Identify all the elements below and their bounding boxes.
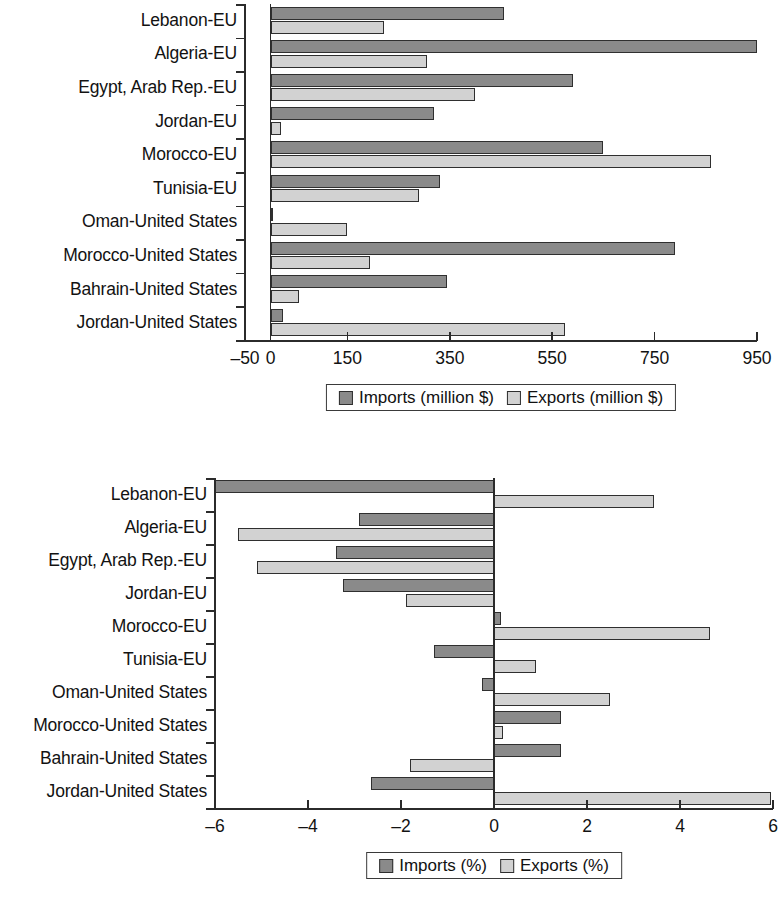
bar-imports	[271, 7, 504, 20]
legend-swatch-imports-icon	[379, 859, 393, 873]
category-label: Egypt, Arab Rep.-EU	[48, 552, 207, 570]
x-axis-tick-label: –2	[391, 818, 410, 836]
category-label: Bahrain-United States	[70, 281, 237, 299]
x-axis-tick	[493, 800, 495, 809]
bar-exports	[271, 122, 281, 135]
bar-imports	[371, 777, 494, 790]
category-label: Jordan-EU	[155, 113, 237, 131]
bar-exports	[271, 88, 476, 101]
x-axis-tick	[270, 332, 272, 341]
x-axis-tick	[551, 332, 553, 341]
x-axis-tick	[654, 332, 656, 341]
legend-item: Imports (%)	[379, 857, 487, 874]
category-label: Tunisia-EU	[123, 651, 207, 669]
category-label: Morocco-EU	[142, 146, 237, 164]
legend-swatch-imports-icon	[339, 391, 353, 405]
category-label: Oman-United States	[52, 684, 207, 702]
bar-imports	[271, 141, 604, 154]
bar-imports	[271, 107, 435, 120]
x-axis-tick-label: –4	[298, 818, 317, 836]
x-axis-tick-label: 6	[768, 818, 778, 836]
horizontal-axis	[245, 340, 757, 342]
bar-imports	[494, 744, 561, 757]
x-axis-tick-label: 350	[435, 350, 464, 368]
category-label: Lebanon-EU	[141, 12, 237, 30]
x-axis-tick	[307, 800, 309, 809]
category-label: Tunisia-EU	[153, 180, 237, 198]
bar-exports	[494, 627, 710, 640]
category-label: Lebanon-EU	[111, 486, 207, 504]
bar-exports	[494, 660, 536, 673]
category-label: Jordan-United States	[47, 783, 207, 801]
legend-label: Exports (%)	[520, 857, 609, 874]
category-label: Egypt, Arab Rep.-EU	[78, 79, 237, 97]
bar-imports	[343, 579, 494, 592]
bar-imports	[271, 242, 675, 255]
legend-item: Exports (%)	[500, 857, 609, 874]
bar-imports	[359, 513, 494, 526]
bar-exports	[494, 792, 771, 805]
bar-exports	[494, 495, 654, 508]
bar-imports	[215, 480, 494, 493]
x-axis-tick	[449, 332, 451, 341]
bar-exports	[271, 323, 565, 336]
x-axis-tick-label: 0	[266, 350, 276, 368]
x-axis-tick	[214, 800, 216, 809]
bar-exports	[257, 561, 494, 574]
x-axis-tick	[772, 800, 774, 809]
chart-legend: Imports (million $)Exports (million $)	[326, 384, 676, 411]
vertical-axis	[214, 478, 216, 808]
x-axis-tick	[400, 800, 402, 809]
legend-item: Imports (million $)	[339, 389, 494, 406]
x-axis-tick-label: –6	[205, 818, 224, 836]
chart-legend: Imports (%)Exports (%)	[366, 852, 622, 879]
category-label: Morocco-EU	[112, 618, 207, 636]
bar-exports	[271, 290, 299, 303]
x-axis-tick	[586, 800, 588, 809]
bar-exports	[406, 594, 494, 607]
x-axis-tick-label: 0	[489, 818, 499, 836]
bar-exports	[271, 256, 371, 269]
x-axis-tick	[347, 332, 349, 341]
zero-line	[270, 4, 272, 340]
bar-exports	[494, 693, 610, 706]
x-axis-tick-label: 2	[582, 818, 592, 836]
category-label: Algeria-EU	[154, 45, 237, 63]
bar-imports	[271, 175, 440, 188]
bar-exports	[271, 223, 348, 236]
bar-exports	[238, 528, 494, 541]
x-axis-tick-label: 950	[742, 350, 771, 368]
x-axis-tick-label: 4	[675, 818, 685, 836]
bar-imports	[271, 74, 573, 87]
legend-swatch-exports-icon	[507, 391, 521, 405]
category-label: Jordan-EU	[125, 585, 207, 603]
x-axis-tick	[756, 332, 758, 341]
category-label: Algeria-EU	[124, 519, 207, 537]
x-axis-tick-label: 750	[640, 350, 669, 368]
legend-label: Imports (million $)	[359, 389, 494, 406]
vertical-axis	[244, 4, 246, 340]
category-label: Jordan-United States	[77, 314, 237, 332]
bar-imports	[271, 40, 757, 53]
legend-swatch-exports-icon	[500, 859, 514, 873]
category-label: Oman-United States	[82, 213, 237, 231]
bar-exports	[271, 189, 419, 202]
bar-imports	[494, 711, 561, 724]
chart-imports-exports-values: Lebanon-EUAlgeria-EUEgypt, Arab Rep.-EUJ…	[0, 0, 782, 440]
category-label: Morocco-United States	[63, 247, 237, 265]
chart-imports-exports-shares: Lebanon-EUAlgeria-EUEgypt, Arab Rep.-EUJ…	[0, 458, 782, 898]
bar-exports	[410, 759, 494, 772]
bar-imports	[336, 546, 494, 559]
bar-exports	[271, 155, 711, 168]
bar-exports	[271, 21, 384, 34]
category-label: Morocco-United States	[33, 717, 207, 735]
x-axis-tick-label: 150	[333, 350, 362, 368]
legend-label: Exports (million $)	[527, 389, 663, 406]
bar-imports	[271, 275, 448, 288]
legend-item: Exports (million $)	[507, 389, 663, 406]
bar-imports	[271, 309, 284, 322]
zero-line	[493, 478, 495, 808]
legend-label: Imports (%)	[399, 857, 487, 874]
bar-imports	[494, 612, 501, 625]
bar-imports	[434, 645, 494, 658]
